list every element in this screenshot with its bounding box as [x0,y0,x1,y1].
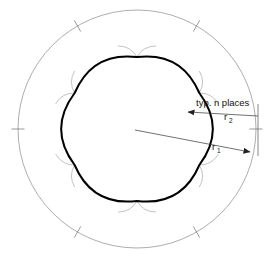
construction-arc [137,46,156,57]
construction-arc [118,46,137,57]
construction-arcs [56,46,219,212]
dimension-r1-label: r 1 [212,141,221,154]
outer-circle-tick-marks [12,20,263,237]
circle-tick-mark [193,226,200,237]
scalloped-hexagon-profile [61,56,213,201]
technical-drawing-canvas: r 2 r 1 typ. n places [0,0,274,263]
dimension-r2-label: r 2 [224,111,233,124]
dimension-r1-line [135,130,250,152]
dimension-r2-letter: r [224,111,227,122]
construction-arc [71,165,74,187]
dimension-r1-subscript: 1 [217,147,221,154]
typ-n-places-note: typ. n places [196,97,250,108]
dimension-r2-line [188,112,258,116]
circle-tick-mark [193,20,200,31]
circle-tick-mark [74,226,81,237]
outer-circle [18,10,256,248]
construction-arc [137,201,156,212]
construction-arc [199,71,202,93]
construction-arc [199,165,202,187]
dimension-r2-subscript: 2 [229,117,233,124]
circle-tick-mark [74,20,81,31]
diagram-svg: r 2 r 1 typ. n places [0,0,274,263]
construction-arc [118,201,137,212]
dimension-r1-letter: r [212,141,215,152]
construction-arc [71,71,74,93]
